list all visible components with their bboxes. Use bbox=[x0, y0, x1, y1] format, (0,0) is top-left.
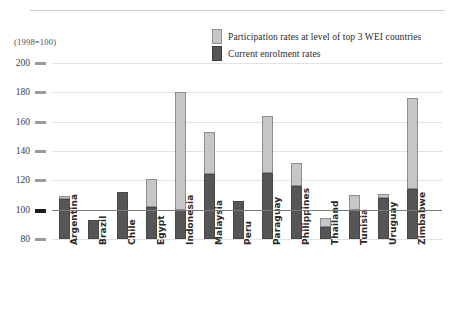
y-axis-tick-label: 140 bbox=[0, 146, 30, 156]
top-divider bbox=[30, 10, 445, 11]
bar-segment-enrolment[interactable] bbox=[117, 192, 128, 239]
bar-segment-enrolment[interactable] bbox=[146, 207, 157, 239]
bar-group[interactable] bbox=[146, 63, 157, 239]
bar-group[interactable] bbox=[262, 63, 273, 239]
bar-segment-enrolment[interactable] bbox=[407, 189, 418, 239]
bar-segment-participation[interactable] bbox=[320, 218, 331, 227]
bar-group[interactable] bbox=[204, 63, 215, 239]
bar-group[interactable] bbox=[59, 63, 70, 239]
legend-item: Participation rates at level of top 3 WE… bbox=[212, 28, 421, 45]
legend-label: Current enrolment rates bbox=[228, 49, 321, 59]
x-axis-label: Uruguay bbox=[388, 202, 398, 245]
bar-segment-enrolment[interactable] bbox=[233, 201, 244, 239]
x-axis-label: Thailand bbox=[330, 200, 340, 245]
x-axis-label: Tunisia bbox=[359, 209, 369, 245]
legend-item: Current enrolment rates bbox=[212, 45, 421, 62]
x-axis-label: Zimbabwe bbox=[417, 192, 427, 245]
plot-area: 80100120140160180200ArgentinaBrazilChile… bbox=[52, 63, 442, 239]
bar-group[interactable] bbox=[233, 63, 244, 239]
y-axis-tick-label: 120 bbox=[0, 175, 30, 185]
bar-group[interactable] bbox=[117, 63, 128, 239]
bar-segment-enrolment[interactable] bbox=[378, 198, 389, 239]
y-axis-tick bbox=[35, 91, 46, 94]
y-axis-tick-label: 160 bbox=[0, 117, 30, 127]
y-axis-tick-label: 180 bbox=[0, 87, 30, 97]
y-axis-tick bbox=[35, 62, 46, 65]
bar-segment-participation[interactable] bbox=[175, 92, 186, 209]
chart-figure: (1998=100) Participation rates at level … bbox=[0, 0, 460, 310]
y-axis-tick-label: 80 bbox=[0, 234, 30, 244]
bar-segment-enrolment[interactable] bbox=[204, 174, 215, 239]
x-axis-label: Peru bbox=[243, 221, 253, 245]
bar-segment-enrolment[interactable] bbox=[320, 227, 331, 239]
y-axis-tick bbox=[35, 209, 46, 213]
bar-group[interactable] bbox=[407, 63, 418, 239]
x-axis-label: Brazil bbox=[98, 216, 108, 245]
bar-group[interactable] bbox=[88, 63, 99, 239]
x-axis-label: Paraguay bbox=[272, 197, 282, 245]
bar-segment-participation[interactable] bbox=[204, 132, 215, 175]
bar-group[interactable] bbox=[378, 63, 389, 239]
bar-segment-participation[interactable] bbox=[407, 98, 418, 189]
chart-legend: Participation rates at level of top 3 WE… bbox=[212, 28, 421, 62]
x-axis-label: Malaysia bbox=[214, 200, 224, 245]
bar-segment-enrolment[interactable] bbox=[88, 220, 99, 239]
bar-group[interactable] bbox=[175, 63, 186, 239]
bar-segment-participation[interactable] bbox=[146, 179, 157, 207]
bar-segment-enrolment[interactable] bbox=[262, 173, 273, 239]
y-axis-tick-label: 100 bbox=[0, 205, 30, 215]
bar-segment-participation[interactable] bbox=[349, 195, 360, 210]
bar-segment-enrolment[interactable] bbox=[59, 199, 70, 239]
x-axis-label: Indonesia bbox=[185, 195, 195, 245]
bar-segment-participation[interactable] bbox=[291, 163, 302, 186]
x-axis-label: Argentina bbox=[69, 194, 79, 245]
legend-label: Participation rates at level of top 3 WE… bbox=[228, 32, 421, 42]
y-axis-tick bbox=[35, 121, 46, 124]
legend-swatch-dark bbox=[212, 46, 222, 61]
index-reference-line bbox=[52, 210, 442, 211]
bar-segment-enrolment[interactable] bbox=[175, 210, 186, 239]
x-axis-label: Chile bbox=[127, 219, 137, 245]
index-base-note: (1998=100) bbox=[14, 37, 56, 47]
bar-segment-participation[interactable] bbox=[262, 116, 273, 173]
y-axis-tick-label: 200 bbox=[0, 58, 30, 68]
bar-group[interactable] bbox=[291, 63, 302, 239]
y-axis-tick bbox=[35, 150, 46, 153]
x-axis-label: Philippines bbox=[301, 188, 311, 245]
bar-segment-enrolment[interactable] bbox=[349, 210, 360, 239]
bar-group[interactable] bbox=[349, 63, 360, 239]
bar-segment-enrolment[interactable] bbox=[291, 186, 302, 239]
y-axis-tick bbox=[35, 238, 46, 241]
x-axis-label: Egypt bbox=[156, 215, 166, 245]
y-axis-tick bbox=[35, 179, 46, 182]
legend-swatch-light bbox=[212, 29, 222, 44]
